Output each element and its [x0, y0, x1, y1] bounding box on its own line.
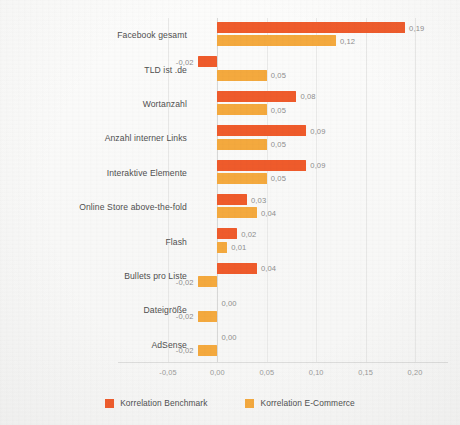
bar-slot: 0,19 [0, 22, 460, 33]
chart-row: Wortanzahl0,080,05 [0, 87, 460, 121]
legend-swatch-icon [105, 399, 114, 408]
bar-value-label: 0,05 [271, 105, 286, 114]
bar-value-label: 0,05 [271, 71, 286, 80]
bar-value-label: 0,03 [251, 195, 266, 204]
chart-row: Bullets pro Liste0,04-0,02 [0, 259, 460, 293]
bar-value-label: 0,05 [271, 174, 286, 183]
bar-slot: 0,00 [0, 297, 460, 308]
bar-ecommerce[interactable] [217, 104, 266, 115]
bar-value-label: 0,00 [221, 298, 236, 307]
bar-slot: 0,04 [0, 207, 460, 218]
chart-row: TLD ist .de-0,020,05 [0, 52, 460, 86]
bar-slot: 0,03 [0, 194, 460, 205]
bar-ecommerce[interactable] [198, 276, 218, 287]
bar-slot: 0,05 [0, 70, 460, 81]
bar-benchmark[interactable] [217, 91, 296, 102]
bar-benchmark[interactable] [217, 22, 405, 33]
x-axis-tick-label: 0,15 [358, 368, 373, 377]
bar-value-label: 0,19 [409, 23, 424, 32]
x-axis-tick-label: 0,05 [259, 368, 274, 377]
x-axis-tick-label: 0,00 [210, 368, 225, 377]
legend-swatch-icon [245, 399, 254, 408]
bar-slot: 0,00 [0, 332, 460, 343]
bar-value-label: 0,12 [340, 36, 355, 45]
chart-row: Flash0,020,01 [0, 224, 460, 258]
bar-benchmark[interactable] [217, 194, 247, 205]
bar-ecommerce[interactable] [217, 242, 227, 253]
chart-row: Facebook gesamt0,190,12 [0, 18, 460, 52]
bar-value-label: 0,09 [310, 161, 325, 170]
x-axis-tick-label: 0,10 [309, 368, 324, 377]
bar-value-label: -0,02 [176, 57, 194, 66]
bar-ecommerce[interactable] [217, 70, 266, 81]
bar-slot: -0,02 [0, 345, 460, 356]
legend-item[interactable]: Korrelation E-Commerce [245, 398, 354, 408]
bar-benchmark[interactable] [217, 125, 306, 136]
bar-slot: 0,01 [0, 242, 460, 253]
plot-area: Facebook gesamt0,190,12TLD ist .de-0,020… [0, 18, 460, 362]
chart-row: Interaktive Elemente0,090,05 [0, 156, 460, 190]
legend-label: Korrelation E-Commerce [260, 398, 354, 408]
bar-value-label: 0,05 [271, 140, 286, 149]
bar-slot: 0,05 [0, 104, 460, 115]
bar-slot: 0,02 [0, 228, 460, 239]
bar-ecommerce[interactable] [198, 311, 218, 322]
bar-benchmark[interactable] [217, 263, 257, 274]
bar-benchmark[interactable] [198, 56, 218, 67]
bar-value-label: -0,02 [176, 277, 194, 286]
correlation-bar-chart: Facebook gesamt0,190,12TLD ist .de-0,020… [0, 0, 460, 425]
bar-slot: 0,05 [0, 139, 460, 150]
legend-label: Korrelation Benchmark [120, 398, 207, 408]
bar-value-label: 0,01 [231, 243, 246, 252]
chart-row: Dateigröße0,00-0,02 [0, 293, 460, 327]
bar-ecommerce[interactable] [217, 173, 266, 184]
x-axis-tick-label: 0,20 [408, 368, 423, 377]
bar-ecommerce[interactable] [217, 207, 257, 218]
bar-slot: -0,02 [0, 276, 460, 287]
bar-ecommerce[interactable] [217, 139, 266, 150]
bar-slot: 0,05 [0, 173, 460, 184]
bar-slot: 0,12 [0, 35, 460, 46]
chart-legend: Korrelation BenchmarkKorrelation E-Comme… [0, 398, 460, 408]
bar-ecommerce[interactable] [198, 345, 218, 356]
bar-slot: 0,04 [0, 263, 460, 274]
bar-value-label: 0,09 [310, 126, 325, 135]
bar-benchmark[interactable] [217, 160, 306, 171]
bar-value-label: -0,02 [176, 346, 194, 355]
bar-value-label: 0,02 [241, 229, 256, 238]
bar-value-label: 0,04 [261, 208, 276, 217]
bar-benchmark[interactable] [217, 228, 237, 239]
bar-ecommerce[interactable] [217, 35, 336, 46]
x-axis: -0,050,000,050,100,150,20 [0, 362, 460, 384]
chart-row: Online Store above-the-fold0,030,04 [0, 190, 460, 224]
bar-value-label: 0,00 [221, 333, 236, 342]
bar-value-label: -0,02 [176, 312, 194, 321]
bar-slot: 0,08 [0, 91, 460, 102]
bar-slot: -0,02 [0, 56, 460, 67]
legend-item[interactable]: Korrelation Benchmark [105, 398, 207, 408]
x-axis-line [118, 362, 448, 363]
bar-slot: 0,09 [0, 125, 460, 136]
chart-row: AdSense0,00-0,02 [0, 328, 460, 362]
chart-row: Anzahl interner Links0,090,05 [0, 121, 460, 155]
bar-slot: -0,02 [0, 311, 460, 322]
x-axis-tick-label: -0,05 [159, 368, 176, 377]
bar-value-label: 0,04 [261, 264, 276, 273]
bar-value-label: 0,08 [300, 92, 315, 101]
bar-slot: 0,09 [0, 160, 460, 171]
